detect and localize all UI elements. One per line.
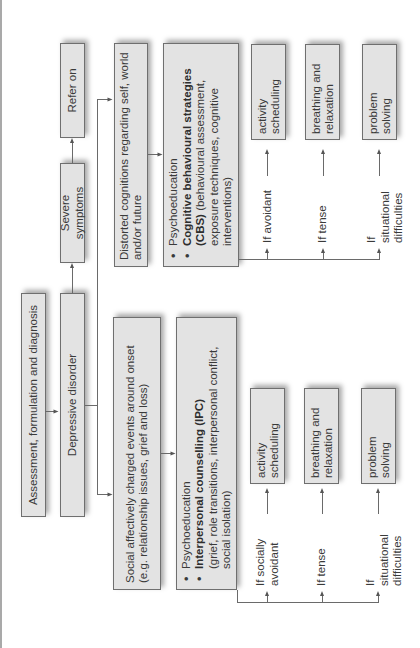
ipc-connector-action [267,492,268,514]
ipc-condition-tense: If tense [315,516,329,586]
arrow-head [70,138,74,143]
arrow-head [54,410,59,414]
cbs-connector-action [267,153,268,176]
arrow-head [377,248,381,253]
ipc-connector-action [378,492,379,514]
ipc-bullet-interpersonal-counselling: Interpersonal counselling (IPC)(grief, r… [193,324,234,569]
ipc-condition-situational: If situational difficulties [364,526,405,586]
arrow-head [158,153,163,157]
node-assessment: Assessment, formulation and diagnosis [21,293,46,517]
connector-depressive-down [85,405,97,406]
cbs-bullet-psychoeducation: Psychoeducation [167,50,181,246]
cbs-action-problem-solving: problem solving [362,44,397,140]
arrow-head [265,591,269,596]
arrow-head [320,488,324,493]
ipc-branch-spine [237,602,379,603]
ipc-action-breathing-relaxation: breathing and relaxation [304,388,339,484]
arrow-head [377,149,381,154]
ipc-bold-text: Interpersonal counselling (IPC) [193,399,205,569]
ipc-bullet-psychoeducation: Psychoeducation [180,324,194,569]
node-assessment-label: Assessment, formulation and diagnosis [27,305,41,505]
arrow-head [321,149,325,154]
cbs-condition-situational: If situational difficulties [365,183,406,243]
arrow-head [376,488,380,493]
arrow-head [376,591,380,596]
ipc-connector-action [322,492,323,514]
arrow-head [108,493,113,497]
arrow-head [265,488,269,493]
arrow-head [70,263,74,268]
cbs-action-breathing-relaxation: breathing and relaxation [305,44,340,140]
cbs-bullet1-text: Psychoeducation [167,158,179,246]
ipc-bullet1-text: Psychoeducation [180,481,192,569]
cbs-branch-spine [239,259,379,260]
ipc-action-problem-solving-label: problem solving [366,423,392,478]
arrow-head [108,98,113,102]
ipc-action-problem-solving: problem solving [361,388,396,484]
node-depressive-disorder-label: Depressive disorder [66,354,80,456]
cbs-connector-action [379,153,380,176]
connector-depressive-severe [72,267,73,293]
node-social-events-label: Social affectively charged events around… [124,324,151,583]
ipc-branch-tick [267,595,268,603]
ipc-bullet-list: Psychoeducation Interpersonal counsellin… [180,324,234,583]
cbs-bullet-cognitive-behavioural: Cognitive behavioural strategies (CBS) (… [181,50,235,246]
cbs-connector-action [323,153,324,176]
node-severe-symptoms: Severe symptoms [60,163,85,263]
connector-branch-horizontal [97,99,98,495]
cbs-bullet-list: Psychoeducation Cognitive behavioural st… [167,50,235,260]
ipc-branch-tick [378,595,379,603]
arrow-head [265,248,269,253]
flowchart: Assessment, formulation and diagnosis De… [0,0,420,648]
connector-severe-refer [72,142,73,163]
node-social-events: Social affectively charged events around… [113,317,161,590]
node-refer-on-label: Refer on [66,68,80,112]
arrow-head [320,591,324,596]
ipc-condition-socially-avoidant: If socially avoidant [254,516,281,586]
ipc-action-breathing-relaxation-label: breathing and relaxation [309,398,335,478]
node-distorted-cognitions-label: Distorted cognitions regarding self, wor… [118,50,145,260]
cbs-branch-tick [379,252,380,260]
cbs-action-activity-scheduling: activity scheduling [251,44,286,140]
node-severe-symptoms-label: Severe symptoms [59,170,86,256]
cbs-action-activity-scheduling-label: activity scheduling [256,74,282,134]
ipc-action-activity-scheduling-label: activity scheduling [255,418,281,478]
ipc-branch-tick [322,595,323,603]
arrow-head [171,452,176,456]
arrow-head [321,248,325,253]
node-refer-on: Refer on [60,43,85,138]
cbs-branch-tick [267,252,268,260]
node-ipc: Psychoeducation Interpersonal counsellin… [176,317,237,590]
ipc-detail-text: (grief, role transitions, interpersonal … [207,347,233,569]
arrow-head [265,149,269,154]
ipc-action-activity-scheduling: activity scheduling [250,388,285,484]
cbs-action-problem-solving-label: problem solving [367,79,393,134]
cbs-action-breathing-relaxation-label: breathing and relaxation [310,54,336,134]
node-distorted-cognitions: Distorted cognitions regarding self, wor… [114,43,148,267]
node-cbs: Psychoeducation Cognitive behavioural st… [163,43,239,267]
node-depressive-disorder: Depressive disorder [60,293,85,517]
cbs-condition-tense: If tense [316,173,330,243]
ipc-branch-top [237,590,238,603]
cbs-branch-tick [323,252,324,260]
